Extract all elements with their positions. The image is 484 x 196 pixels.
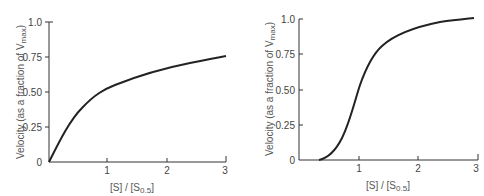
y-tick-label: 0 [289,155,295,166]
x-tick-label: 3 [473,163,479,174]
chart-left: 1.0 0.75 0.50 0.25 0 1 2 3 [S] / [S0.5] … [15,17,228,195]
y-tick-label: 0.25 [276,120,296,131]
y-tick-label: 0.50 [276,85,296,96]
x-tick-label: 2 [415,163,421,174]
x-axis-label: [S] / [S0.5] [110,182,154,195]
x-tick-label: 3 [222,165,228,176]
y-tick-label: 0.75 [276,49,296,60]
y-tick-label: 1.0 [281,14,295,25]
chart-right: 1.0 0.75 0.50 0.25 0 1 2 3 [S] / [S0.5] … [264,14,479,193]
x-axis-label: [S] / [S0.5] [366,180,410,193]
hyperbolic-curve [49,56,226,162]
x-tick-label: 1 [356,163,362,174]
chart-canvas: 1.0 0.75 0.50 0.25 0 1 2 3 [S] / [S0.5] … [0,0,484,196]
x-tick-label: 2 [164,165,170,176]
y-tick-label: 1.0 [28,17,42,28]
sigmoidal-curve [319,18,474,160]
x-tick-label: 1 [104,165,110,176]
y-tick-label: 0 [36,157,42,168]
